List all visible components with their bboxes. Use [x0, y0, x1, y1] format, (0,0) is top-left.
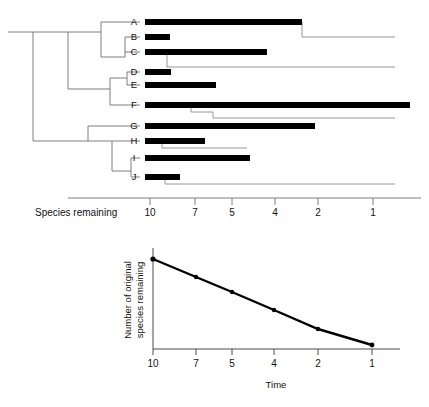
duration-bar-c — [145, 49, 267, 55]
duration-bar-i — [145, 155, 250, 161]
duration-bar-d — [145, 69, 171, 75]
taxon-label-h: H — [131, 135, 138, 146]
tree-panel: A B C D E F G H I J — [8, 16, 410, 184]
taxon-labels: A B C D E F G H I J — [130, 16, 138, 182]
species-remaining-caption: Species remaining — [35, 207, 117, 218]
taxon-label-e: E — [131, 79, 137, 90]
taxon-label-d: D — [131, 66, 138, 77]
chart-tick-label-10: 10 — [147, 358, 159, 369]
taxon-label-a: A — [131, 16, 138, 27]
axis-tick-label-7: 7 — [192, 207, 198, 218]
species-remaining-axis: 10 7 5 4 2 1 Species remaining — [35, 198, 421, 218]
taxon-label-f: F — [131, 99, 137, 110]
taxon-label-j: J — [132, 171, 137, 182]
chart-data-point — [230, 290, 234, 294]
duration-bar-j — [145, 174, 180, 180]
tree-branches — [8, 22, 140, 177]
phylogeny-and-chart-figure: A B C D E F G H I J 10 7 5 4 — [0, 0, 429, 407]
taxon-label-c: C — [131, 46, 138, 57]
axis-tick-label-10: 10 — [144, 207, 156, 218]
extension-line-a — [302, 22, 395, 37]
duration-bar-f — [145, 102, 410, 108]
chart-data-point — [272, 308, 276, 312]
chart-tick-label-1: 1 — [369, 358, 375, 369]
axis-tick-label-2: 2 — [315, 207, 321, 218]
chart-data-point — [370, 343, 375, 348]
taxon-label-i: I — [133, 152, 136, 163]
axis-tick-label-1: 1 — [370, 207, 376, 218]
chart-data-point — [194, 275, 198, 279]
chart-data-point — [150, 256, 155, 261]
chart-tick-label-5: 5 — [229, 358, 235, 369]
chart-data-point — [316, 327, 320, 331]
chart-x-axis-title: Time — [266, 379, 287, 390]
extension-line-f-2 — [213, 112, 395, 118]
taxon-label-g: G — [130, 120, 137, 131]
chart-data-line — [153, 259, 372, 345]
figure-container: A B C D E F G H I J 10 7 5 4 — [0, 0, 429, 407]
chart-tick-label-2: 2 — [315, 358, 321, 369]
duration-bar-h — [145, 138, 205, 144]
chart-tick-label-7: 7 — [193, 358, 199, 369]
taxon-label-b: B — [131, 31, 137, 42]
line-chart-panel: 10 7 5 4 2 1 Number of original species … — [122, 248, 400, 390]
extension-line-j — [165, 177, 395, 184]
tree-duration-bars — [145, 19, 410, 180]
duration-bar-e — [145, 82, 216, 88]
duration-bar-g — [145, 123, 315, 129]
chart-y-axis-title-line2: species remaining — [134, 262, 145, 339]
chart-y-axis-title-line1: Number of original — [122, 261, 133, 339]
axis-tick-label-4: 4 — [272, 207, 278, 218]
duration-bar-b — [145, 34, 170, 40]
axis-tick-label-5: 5 — [229, 207, 235, 218]
duration-bar-a — [145, 19, 302, 25]
chart-tick-label-4: 4 — [271, 358, 277, 369]
